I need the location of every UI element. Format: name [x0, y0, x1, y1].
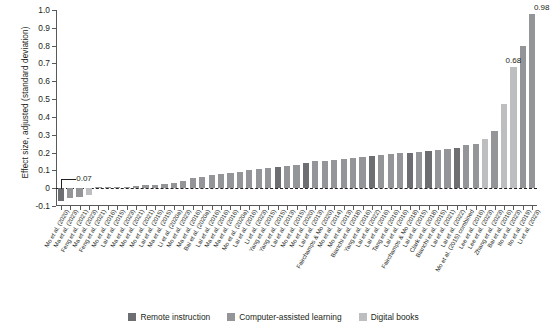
- bar: [303, 163, 309, 188]
- bar-value-label: -0.07: [74, 174, 92, 183]
- x-axis-labels: Mo et al. (2020)Ma et al. (2023)Feng et …: [56, 208, 537, 300]
- legend-item[interactable]: Remote instruction: [128, 312, 210, 322]
- bar: [237, 172, 243, 188]
- y-tick-label: 0.9: [38, 23, 50, 33]
- bar: [407, 153, 413, 189]
- bar: [491, 131, 497, 188]
- bar: [510, 67, 516, 188]
- legend-swatch-icon: [359, 313, 367, 321]
- bar: [209, 175, 215, 188]
- bar: [473, 144, 479, 189]
- bar: [359, 157, 365, 188]
- bar: [265, 168, 271, 188]
- legend-item[interactable]: Computer-assisted learning: [227, 312, 341, 322]
- bar-value-label: 0.68: [506, 56, 522, 65]
- bar: [199, 177, 205, 189]
- bar: [180, 181, 186, 188]
- y-tick-label: 0.2: [38, 148, 50, 158]
- bar: [293, 165, 299, 188]
- legend-label: Digital books: [371, 312, 419, 322]
- bar: [425, 151, 431, 188]
- bar: [435, 150, 441, 188]
- y-tick-label: -0.1: [36, 201, 50, 211]
- bar: [529, 14, 535, 189]
- bar: [227, 173, 233, 188]
- y-tick-label: 0.6: [38, 76, 50, 86]
- bar: [67, 188, 73, 198]
- bar: [142, 185, 148, 188]
- bar: [256, 169, 262, 188]
- bar: [133, 186, 139, 188]
- y-tick-label: 0.1: [38, 165, 50, 175]
- bar: [482, 139, 488, 188]
- y-tick-label: 0.4: [38, 112, 50, 122]
- bar: [463, 145, 469, 188]
- bar: [58, 188, 64, 200]
- bar: [388, 154, 394, 188]
- bar: [501, 104, 507, 188]
- chart-legend: Remote instructionComputer-assisted lear…: [0, 312, 547, 322]
- bar: [76, 188, 82, 197]
- bar: [171, 183, 177, 188]
- bar: [218, 174, 224, 188]
- y-tick-label: 0: [45, 183, 50, 193]
- bar: [190, 178, 196, 188]
- bar: [444, 149, 450, 188]
- bar: [416, 152, 422, 189]
- bar: [454, 148, 460, 188]
- bar: [331, 160, 337, 189]
- bar-value-label: 0.98: [534, 3, 550, 12]
- y-tick-label: 1.0: [38, 5, 50, 15]
- bar: [86, 188, 92, 195]
- y-axis-title: Effect size, adjusted (standard deviatio…: [21, 8, 30, 198]
- plot-area: 1.00.90.80.70.60.50.40.30.20.10-0.1 -0.0…: [56, 10, 537, 206]
- legend-swatch-icon: [227, 313, 235, 321]
- bar: [322, 161, 328, 189]
- bar: [284, 166, 290, 188]
- bar: [397, 153, 403, 188]
- y-tick-label: 0.7: [38, 58, 50, 68]
- bar: [312, 161, 318, 188]
- bar: [114, 187, 120, 188]
- legend-item[interactable]: Digital books: [359, 312, 419, 322]
- bar: [275, 167, 281, 188]
- legend-swatch-icon: [128, 313, 136, 321]
- y-tick-label: 0.5: [38, 94, 50, 104]
- bar: [341, 159, 347, 188]
- bar: [520, 46, 526, 189]
- bar: [161, 184, 167, 188]
- legend-label: Computer-assisted learning: [239, 312, 341, 322]
- bar: [369, 156, 375, 188]
- bar: [246, 170, 252, 188]
- bar: [152, 185, 158, 189]
- bar: [105, 187, 111, 188]
- bar-series: -0.070.680.98: [56, 10, 537, 206]
- y-tick-label: 0.3: [38, 130, 50, 140]
- legend-label: Remote instruction: [140, 312, 210, 322]
- bar: [378, 155, 384, 188]
- bar: [95, 187, 101, 188]
- y-tick-label: 0.8: [38, 41, 50, 51]
- bar: [350, 158, 356, 188]
- bar: [124, 187, 130, 188]
